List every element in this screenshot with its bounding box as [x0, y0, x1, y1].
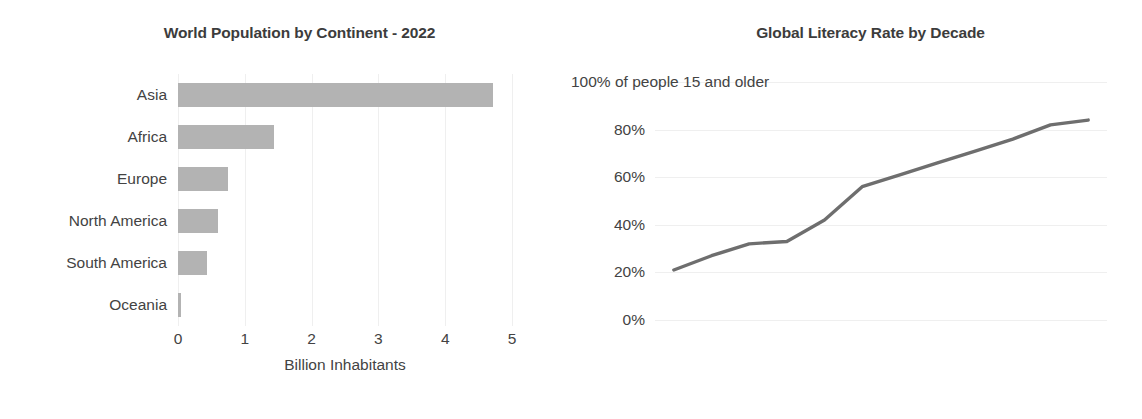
- bar-row[interactable]: Europe: [178, 158, 512, 200]
- bar-category-label: Europe: [117, 167, 178, 191]
- bar-segment[interactable]: [178, 167, 228, 191]
- bar-segment[interactable]: [178, 125, 274, 149]
- line-y-tick: 40%: [614, 216, 655, 234]
- bar-category-label: Asia: [137, 83, 178, 107]
- figure-page: World Population by Continent - 2022 Asi…: [0, 0, 1142, 419]
- bar-x-tick: 5: [508, 330, 517, 348]
- bar-row[interactable]: South America: [178, 242, 512, 284]
- line-series-svg: [655, 82, 1107, 320]
- bar-segment[interactable]: [178, 293, 181, 317]
- line-y-tick: 60%: [614, 168, 655, 186]
- bar-category-label: Oceania: [109, 293, 178, 317]
- line-y-tick: 20%: [614, 263, 655, 281]
- bar-x-axis-ticks: 012345: [178, 330, 512, 352]
- bar-chart-title: World Population by Continent - 2022: [14, 24, 585, 42]
- bar-x-tick: 2: [307, 330, 316, 348]
- line-plot-area: 0%20%40%60%80%100% of people 15 and olde…: [655, 82, 1107, 320]
- bar-row[interactable]: Oceania: [178, 284, 512, 326]
- bar-x-axis-title: Billion Inhabitants: [178, 356, 512, 374]
- bar-series: AsiaAfricaEuropeNorth AmericaSouth Ameri…: [178, 74, 512, 326]
- bar-segment[interactable]: [178, 83, 493, 107]
- bar-chart-panel: World Population by Continent - 2022 Asi…: [0, 0, 571, 419]
- bar-category-label: North America: [69, 209, 178, 233]
- bar-x-tick: 1: [240, 330, 249, 348]
- bar-x-tick: 4: [441, 330, 450, 348]
- line-y-tick: 80%: [614, 121, 655, 139]
- bar-plot-area: AsiaAfricaEuropeNorth AmericaSouth Ameri…: [178, 74, 512, 326]
- literacy-line: [674, 120, 1088, 270]
- bar-row[interactable]: North America: [178, 200, 512, 242]
- bar-category-label: Africa: [127, 125, 178, 149]
- bar-category-label: South America: [66, 251, 178, 275]
- bar-gridline: [512, 74, 513, 326]
- line-gridline: [655, 320, 1107, 321]
- line-chart-panel: Global Literacy Rate by Decade 0%20%40%6…: [571, 0, 1142, 419]
- bar-x-tick: 3: [374, 330, 383, 348]
- bar-row[interactable]: Asia: [178, 74, 512, 116]
- line-y-tick: 0%: [623, 311, 655, 329]
- bar-x-tick: 0: [174, 330, 183, 348]
- bar-segment[interactable]: [178, 251, 207, 275]
- line-chart-title: Global Literacy Rate by Decade: [585, 24, 1142, 42]
- bar-segment[interactable]: [178, 209, 218, 233]
- bar-row[interactable]: Africa: [178, 116, 512, 158]
